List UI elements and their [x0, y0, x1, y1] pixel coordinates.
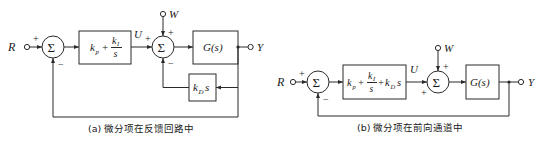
sum1-sign-minus: −: [58, 59, 64, 70]
kp-sub: p: [95, 48, 100, 56]
arrow-icon: [74, 45, 79, 49]
sigma-icon: Σ: [433, 75, 441, 90]
caption-b: (b) 微分项在前向通道中: [357, 122, 463, 133]
sigma-icon: Σ: [313, 75, 321, 90]
arrow-icon: [51, 58, 55, 63]
plant-label: G(s): [203, 41, 223, 54]
input-label-r: R: [7, 40, 16, 54]
arrow-icon: [302, 80, 307, 84]
w-label: W: [444, 42, 454, 54]
input-port: [290, 79, 295, 84]
kd-sub: D: [390, 83, 396, 90]
kd-k: k: [385, 77, 390, 88]
input-label-r: R: [276, 75, 285, 89]
arrow-icon: [37, 45, 42, 49]
caption-a: (a) 微分项在反馈回路中: [88, 123, 194, 134]
y-label: Y: [257, 41, 265, 53]
arrow-icon: [147, 45, 152, 49]
sum2-sign-top: +: [443, 61, 449, 72]
sum2-sign-left: +: [145, 33, 151, 44]
ki-den: s: [370, 84, 374, 94]
arrow-icon: [316, 93, 320, 98]
kd-s: s: [205, 81, 209, 93]
w-label: W: [169, 8, 179, 20]
kd-s: s: [397, 77, 401, 88]
arrow-icon: [216, 86, 221, 90]
sum2-sign-top: +: [168, 27, 174, 38]
plus: +: [102, 41, 108, 53]
arrow-icon: [161, 58, 165, 63]
ki-den: s: [114, 48, 118, 59]
diagram-a: R + Σ − k p + k I s U + W + Σ −: [7, 8, 265, 134]
block-diagrams: R + Σ − k p + k I s U + W + Σ −: [0, 0, 546, 143]
sum1-sign-plus: +: [33, 33, 39, 44]
sum2-sign-bottom: −: [168, 58, 174, 69]
sum1-sign-minus: −: [323, 94, 329, 105]
kp-k: k: [347, 77, 352, 88]
u-label: U: [134, 28, 143, 40]
diagram-b: R + Σ − k p + k I s + k D s U + W + Σ: [276, 42, 536, 133]
output-port: [248, 44, 253, 49]
sigma-icon: Σ: [158, 40, 166, 55]
disturbance-port: [435, 45, 440, 50]
arrow-icon: [461, 80, 466, 84]
sum2-sign-left: +: [421, 87, 427, 98]
y-label: Y: [528, 76, 536, 88]
input-port: [24, 44, 29, 49]
kd-sub: D: [198, 88, 204, 96]
plant-label: G(s): [470, 76, 490, 89]
arrow-icon: [188, 45, 193, 49]
plus: +: [358, 77, 364, 88]
sigma-icon: Σ: [48, 40, 56, 55]
plus: +: [378, 77, 384, 88]
arrow-icon: [161, 31, 165, 36]
output-port: [518, 79, 523, 84]
u-label: U: [410, 63, 419, 75]
disturbance-port: [160, 11, 165, 16]
arrow-icon: [436, 66, 440, 71]
arrow-icon: [422, 80, 427, 84]
sum1-sign-plus: +: [299, 68, 305, 79]
arrow-icon: [338, 80, 343, 84]
